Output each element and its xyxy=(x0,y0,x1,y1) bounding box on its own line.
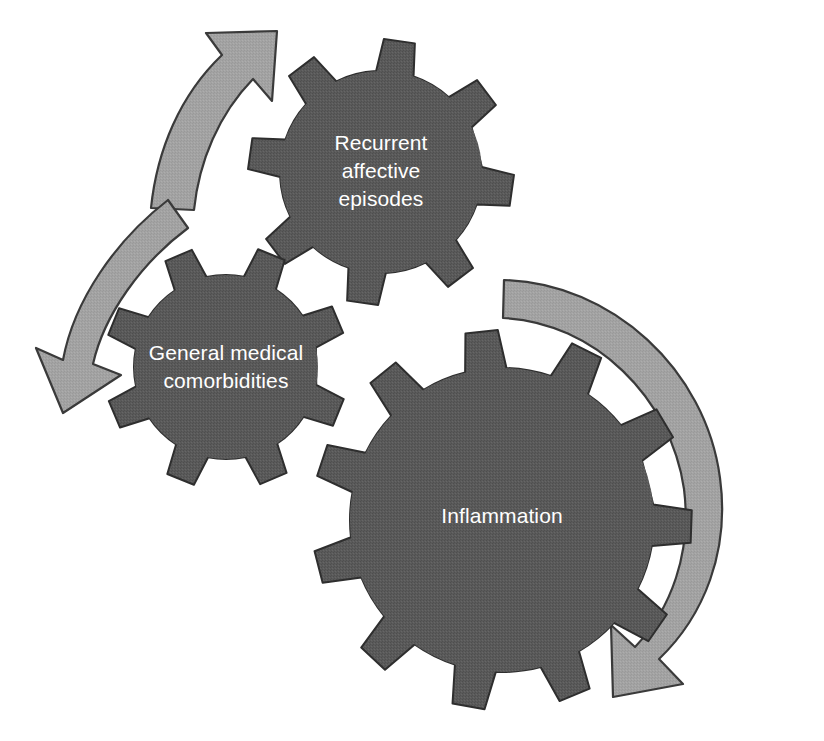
gear-label-recurrent-line-3: episodes xyxy=(339,187,424,210)
gear-label-recurrent-line-1: Recurrent xyxy=(334,131,427,154)
gear-label-recurrent-line-2: affective xyxy=(342,159,421,182)
gear-core-comorbidities xyxy=(134,275,318,459)
diagram-canvas: Recurrent affective episodes General med… xyxy=(0,0,824,741)
gear-label-comorbidities-line-2: comorbidities xyxy=(163,369,288,392)
gears-cycle-diagram: Recurrent affective episodes General med… xyxy=(0,0,824,741)
gear-label-inflammation: Inflammation xyxy=(441,504,562,527)
gear-label-comorbidities-line-1: General medical xyxy=(149,341,303,364)
